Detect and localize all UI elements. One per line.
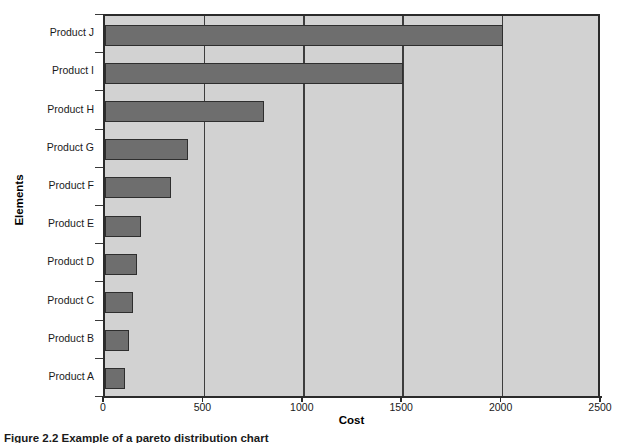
- bar: [105, 216, 141, 237]
- bar: [105, 177, 171, 198]
- bar: [105, 25, 503, 46]
- bar-chart-figure: Elements Product AProduct BProduct CProd…: [0, 0, 631, 443]
- bar: [105, 139, 188, 160]
- bar: [105, 63, 403, 84]
- y-tick-label: Product F: [6, 180, 94, 191]
- y-axis-tick-labels: Product AProduct BProduct CProduct DProd…: [0, 0, 94, 443]
- x-tick-label: 500: [172, 401, 232, 413]
- y-tick-label: Product I: [6, 65, 94, 76]
- y-tick-mark: [95, 167, 103, 168]
- x-tick-label: 1500: [371, 401, 431, 413]
- x-axis-title: Cost: [103, 414, 600, 426]
- plot-area: [103, 14, 600, 396]
- y-tick-mark: [95, 90, 103, 91]
- x-tick-label: 0: [73, 401, 133, 413]
- y-tick-mark: [95, 129, 103, 130]
- y-tick-label: Product D: [6, 256, 94, 267]
- y-tick-mark: [95, 320, 103, 321]
- x-axis-line: [103, 396, 602, 398]
- x-tick-label: 1000: [272, 401, 332, 413]
- figure-caption: Figure 2.2 Example of a pareto distribut…: [4, 432, 424, 443]
- y-tick-mark: [95, 14, 103, 15]
- y-tick-label: Product E: [6, 218, 94, 229]
- bar: [105, 101, 264, 122]
- y-tick-label: Product A: [6, 371, 94, 382]
- y-tick-mark: [95, 243, 103, 244]
- bar: [105, 330, 129, 351]
- y-tick-mark: [95, 205, 103, 206]
- y-tick-mark: [95, 281, 103, 282]
- bar: [105, 254, 137, 275]
- gridline: [502, 16, 504, 396]
- bar: [105, 368, 125, 389]
- y-tick-label: Product C: [6, 295, 94, 306]
- x-tick-label: 2000: [471, 401, 531, 413]
- y-tick-label: Product J: [6, 27, 94, 38]
- x-tick-label: 2500: [570, 401, 630, 413]
- y-tick-label: Product G: [6, 142, 94, 153]
- bar: [105, 292, 133, 313]
- y-tick-mark: [95, 358, 103, 359]
- y-tick-label: Product B: [6, 333, 94, 344]
- y-tick-label: Product H: [6, 104, 94, 115]
- y-tick-mark: [95, 52, 103, 53]
